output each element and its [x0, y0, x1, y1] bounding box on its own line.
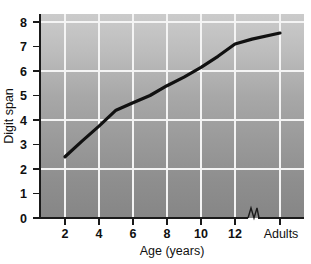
x-tick-label-6: 6: [130, 227, 137, 241]
x-tick-label-10: 10: [194, 227, 208, 241]
x-axis-ticks: [65, 218, 280, 225]
plot-area-background: [40, 14, 304, 218]
y-tick-label-4: 4: [20, 114, 27, 128]
y-tick-label-0: 0: [20, 212, 27, 226]
x-tick-label-8: 8: [164, 227, 171, 241]
y-axis-ticks: [33, 22, 40, 218]
x-tick-label-2: 2: [62, 227, 69, 241]
y-tick-label-7: 7: [20, 40, 27, 54]
y-axis-title: Digit span: [2, 88, 16, 144]
x-axis-title: Age (years): [140, 244, 205, 258]
x-tick-label-adults: Adults: [264, 227, 299, 241]
y-tick-label-1: 1: [20, 187, 27, 201]
y-tick-label-6: 6: [20, 65, 27, 79]
x-tick-label-12: 12: [228, 227, 242, 241]
y-tick-label-8: 8: [20, 16, 27, 30]
chart-canvas: 0 1 2 3 4 5 6 7 8 2 4 6 8 10 12 Adults A…: [0, 0, 311, 264]
x-tick-label-4: 4: [96, 227, 103, 241]
y-tick-label-3: 3: [20, 138, 27, 152]
y-tick-label-2: 2: [20, 163, 27, 177]
y-tick-label-5: 5: [20, 89, 27, 103]
digit-span-line-chart: 0 1 2 3 4 5 6 7 8 2 4 6 8 10 12 Adults A…: [0, 0, 311, 264]
